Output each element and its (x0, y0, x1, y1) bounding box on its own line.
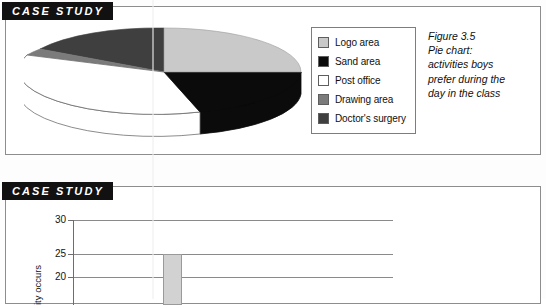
legend-swatch-post-office (318, 75, 329, 86)
y-axis-line (73, 220, 74, 305)
gridline-25 (73, 254, 393, 255)
figure-caption-line-2: Pie chart: (428, 43, 540, 57)
figure-caption-line-3: activities boys (428, 57, 540, 71)
pie-chart-legend: Logo area Sand area Post office Drawing … (311, 27, 416, 134)
legend-label-post-office: Post office (335, 75, 380, 86)
bar-column-1 (163, 254, 182, 305)
legend-item-logo-area: Logo area (318, 33, 415, 52)
legend-label-logo-area: Logo area (335, 37, 379, 48)
gridline-30 (73, 220, 393, 221)
pie-chart-svg (24, 22, 304, 144)
figure-caption: Figure 3.5 Pie chart: activities boys pr… (428, 29, 540, 100)
figure-caption-line-5: day in the class (428, 86, 540, 100)
legend-item-doctors-surgery: Doctor's surgery (318, 109, 415, 128)
y-tick-label-25: 25 (42, 248, 66, 259)
case-study-tab-top: CASE STUDY (2, 2, 113, 20)
y-tick-label-30: 30 (42, 214, 66, 225)
figure-caption-line-1: Figure 3.5 (428, 29, 540, 43)
y-tick-label-20: 20 (42, 271, 66, 282)
legend-item-post-office: Post office (318, 71, 415, 90)
legend-label-drawing-area: Drawing area (335, 94, 393, 105)
legend-item-drawing-area: Drawing area (318, 90, 415, 109)
pie-slice-logo-area (164, 28, 301, 72)
figure-caption-line-4: prefer during the (428, 72, 540, 86)
pie-chart-3d (24, 22, 304, 144)
y-axis-title: ity occurs (32, 265, 43, 305)
case-study-tab-bottom: CASE STUDY (2, 182, 113, 200)
legend-label-doctors-surgery: Doctor's surgery (335, 113, 406, 124)
legend-item-sand-area: Sand area (318, 52, 415, 71)
legend-label-sand-area: Sand area (335, 56, 380, 67)
gridline-20 (73, 277, 393, 278)
bar-chart: 30 25 20 ity occurs (6, 187, 542, 305)
legend-swatch-sand-area (318, 56, 329, 67)
legend-swatch-logo-area (318, 37, 329, 48)
legend-swatch-drawing-area (318, 94, 329, 105)
case-study-panel-bar: 30 25 20 ity occurs (5, 186, 541, 304)
legend-swatch-doctors-surgery (318, 113, 329, 124)
